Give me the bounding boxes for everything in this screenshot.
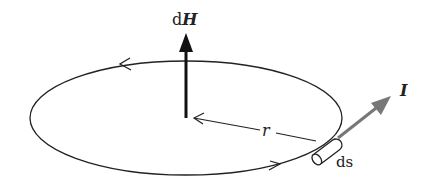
dH-label: dH [172,10,198,29]
loop-direction-arrow-top [120,58,131,70]
current-arrowhead-icon [371,96,391,115]
ds-label: ds [336,153,353,171]
I-label: I [399,81,408,100]
radius-line-b [276,133,316,141]
radius-line-a [194,118,260,130]
dH-arrowhead-icon [179,33,193,52]
magnetic-field-diagram: dH r ds I [0,0,433,186]
r-label: r [262,121,271,140]
current-vector-shaft [338,105,380,138]
